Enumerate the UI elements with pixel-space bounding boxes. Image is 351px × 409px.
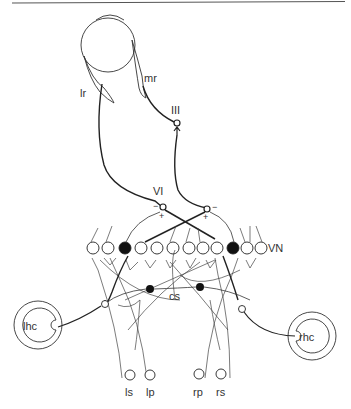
vn-neuron bbox=[87, 242, 99, 254]
rhc-afferent-neuron bbox=[239, 306, 246, 313]
vn-neuron bbox=[241, 242, 253, 254]
left-horizontal-canal bbox=[14, 301, 62, 349]
mr-motor-axon bbox=[143, 86, 174, 122]
rp-afferent bbox=[194, 369, 204, 379]
nucleus-III-neuron bbox=[174, 120, 180, 126]
top-rule bbox=[12, 2, 345, 4]
sign-plus-right: + bbox=[203, 212, 208, 222]
vn-neuron bbox=[197, 242, 209, 254]
rs-afferent bbox=[216, 369, 226, 379]
vn-neuron bbox=[135, 242, 147, 254]
sign-minus-right: − bbox=[212, 202, 217, 212]
label-nucleus-VI: VI bbox=[153, 185, 163, 197]
inhibitory-axon-right bbox=[223, 256, 238, 300]
label-rhc: rhc bbox=[299, 331, 315, 343]
lhc-afferent-neuron bbox=[102, 301, 109, 308]
label-rp: rp bbox=[193, 386, 203, 398]
sign-minus-left: − bbox=[153, 201, 158, 211]
commissural-neuron-left bbox=[146, 285, 154, 293]
vestibular-nuclei-row bbox=[87, 242, 267, 254]
eyeball bbox=[81, 15, 146, 103]
lr-motor-axon bbox=[99, 84, 161, 206]
sign-plus-left: + bbox=[159, 211, 164, 221]
label-lp: lp bbox=[146, 386, 155, 398]
vn-neuron bbox=[102, 242, 114, 254]
label-lhc: lhc bbox=[23, 320, 38, 332]
afferent-fibers bbox=[92, 250, 256, 378]
label-mr: mr bbox=[144, 72, 157, 84]
label-ls: ls bbox=[125, 386, 133, 398]
vestibulo-ocular-circuit-diagram: lr mr III VI − + − + VN bbox=[0, 0, 351, 409]
vn-neuron-inhibitory bbox=[119, 242, 131, 254]
lp-afferent bbox=[145, 370, 155, 380]
abducens-motoneuron bbox=[160, 204, 166, 210]
label-cs: cs bbox=[169, 290, 181, 302]
vn-neuron bbox=[167, 242, 179, 254]
vn-neuron bbox=[151, 242, 163, 254]
label-rs: rs bbox=[216, 386, 226, 398]
label-nucleus-III: III bbox=[171, 104, 180, 116]
rhc-nerve bbox=[244, 312, 295, 336]
lhc-nerve bbox=[58, 306, 101, 327]
vn-neuron bbox=[211, 242, 223, 254]
internuclear-axon bbox=[175, 135, 207, 208]
commissural-neuron-right bbox=[196, 283, 204, 291]
vn-neuron-inhibitory bbox=[227, 242, 239, 254]
vn-neuron bbox=[183, 242, 195, 254]
label-lr: lr bbox=[80, 87, 86, 99]
ls-afferent bbox=[125, 370, 135, 380]
label-vn: VN bbox=[268, 242, 283, 254]
vn-neuron bbox=[255, 242, 267, 254]
